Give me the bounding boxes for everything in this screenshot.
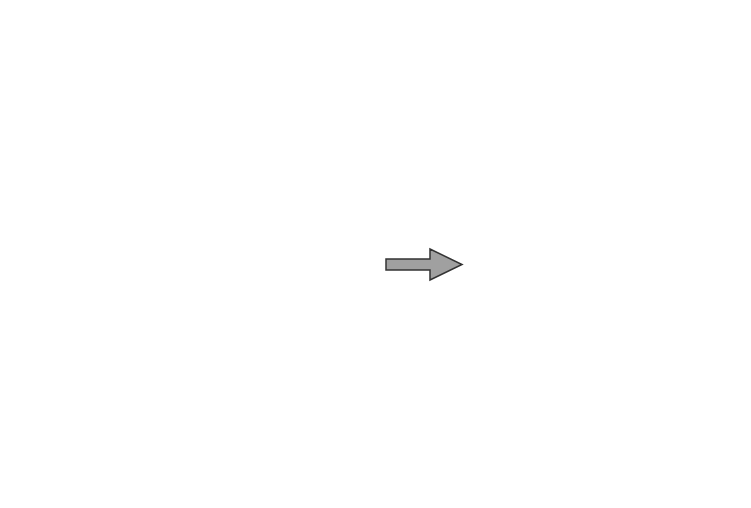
right-arrow-icon — [386, 249, 462, 280]
diagram-canvas — [0, 0, 751, 508]
